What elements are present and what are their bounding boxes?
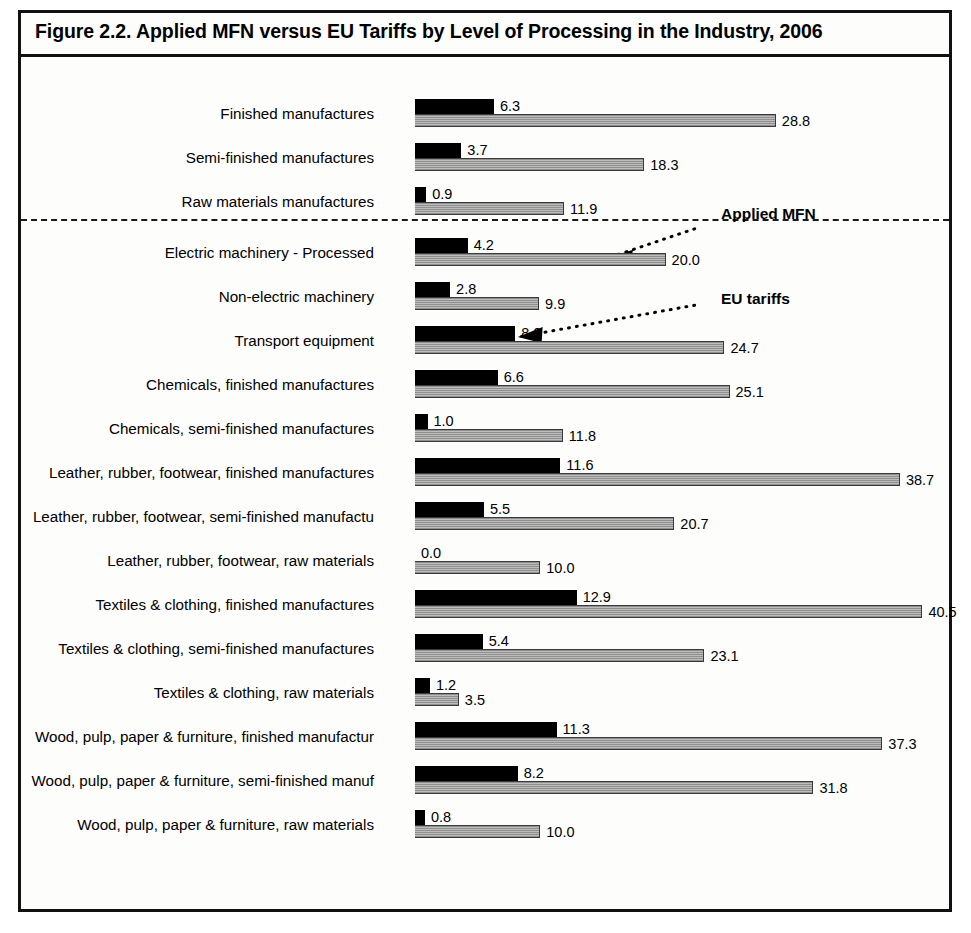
chart-row: Electric machinery - Processed4.220.0 — [21, 236, 949, 280]
category-label: Wood, pulp, paper & furniture, raw mater… — [77, 816, 374, 834]
category-label: Wood, pulp, paper & furniture, finished … — [35, 728, 374, 746]
value-label-eu-tariff: 18.3 — [650, 158, 678, 172]
bar-eu-tariff — [415, 693, 459, 706]
bar-eu-tariff — [415, 649, 704, 662]
category-label: Raw materials manufactures — [182, 193, 374, 211]
category-label: Chemicals, finished manufactures — [146, 376, 374, 394]
bar-eu-tariff — [415, 825, 540, 838]
value-label-eu-tariff: 11.9 — [570, 202, 597, 216]
bar-eu-tariff — [415, 737, 882, 750]
bar-applied-mfn — [415, 722, 557, 737]
chart-row: Transport equipment8.024.7 — [21, 324, 949, 368]
chart-row: Chemicals, finished manufactures6.625.1 — [21, 368, 949, 412]
bar-group: 11.337.3 — [415, 722, 882, 750]
category-label: Non-electric machinery — [219, 288, 374, 306]
bar-group: 0.010.0 — [415, 546, 540, 574]
bar-group: 5.520.7 — [415, 502, 674, 530]
page-title: Figure 2.2. Applied MFN versus EU Tariff… — [35, 20, 823, 43]
figure-frame: Figure 2.2. Applied MFN versus EU Tariff… — [18, 10, 952, 912]
category-label: Chemicals, semi-finished manufactures — [109, 420, 374, 438]
value-label-eu-tariff: 10.0 — [546, 561, 574, 575]
bar-eu-tariff — [415, 781, 813, 794]
bar-applied-mfn — [415, 414, 428, 429]
bar-group: 12.940.5 — [415, 590, 922, 618]
chart-row: Wood, pulp, paper & furniture, finished … — [21, 720, 949, 764]
chart-row: Leather, rubber, footwear, raw materials… — [21, 544, 949, 588]
value-label-applied-mfn: 1.2 — [436, 678, 456, 692]
chart-row: Finished manufactures6.328.8 — [21, 97, 949, 141]
bar-applied-mfn — [415, 502, 484, 517]
bar-eu-tariff — [415, 561, 540, 574]
bar-applied-mfn — [415, 766, 518, 781]
value-label-applied-mfn: 0.9 — [432, 187, 452, 201]
value-label-eu-tariff: 3.5 — [465, 693, 485, 707]
chart-row: Wood, pulp, paper & furniture, raw mater… — [21, 808, 949, 852]
category-label: Wood, pulp, paper & furniture, semi-fini… — [32, 772, 374, 790]
bar-applied-mfn — [415, 187, 426, 202]
bar-group: 8.231.8 — [415, 766, 813, 794]
category-label: Textiles & clothing, raw materials — [154, 684, 374, 702]
bar-applied-mfn — [415, 370, 498, 385]
value-label-eu-tariff: 37.3 — [888, 737, 916, 751]
value-label-applied-mfn: 4.2 — [474, 238, 494, 252]
value-label-eu-tariff: 20.0 — [672, 253, 700, 267]
value-label-eu-tariff: 10.0 — [546, 825, 574, 839]
bar-eu-tariff — [415, 605, 922, 618]
chart-row: Leather, rubber, footwear, finished manu… — [21, 456, 949, 500]
category-label: Leather, rubber, footwear, raw materials — [107, 552, 374, 570]
chart-row: Textiles & clothing, semi-finished manuf… — [21, 632, 949, 676]
chart-row: Wood, pulp, paper & furniture, semi-fini… — [21, 764, 949, 808]
chart-row: Chemicals, semi-finished manufactures1.0… — [21, 412, 949, 456]
bar-group: 1.011.8 — [415, 414, 563, 442]
value-label-applied-mfn: 8.2 — [524, 766, 544, 780]
bar-applied-mfn — [415, 282, 450, 297]
chart-row: Non-electric machinery2.89.9 — [21, 280, 949, 324]
value-label-applied-mfn: 5.5 — [490, 502, 510, 516]
bar-applied-mfn — [415, 99, 494, 114]
value-label-applied-mfn: 0.8 — [431, 810, 451, 824]
value-label-applied-mfn: 6.3 — [500, 99, 520, 113]
chart-row: Leather, rubber, footwear, semi-finished… — [21, 500, 949, 544]
bar-group: 5.423.1 — [415, 634, 704, 662]
bar-eu-tariff — [415, 341, 724, 354]
bar-eu-tariff — [415, 158, 644, 171]
value-label-eu-tariff: 23.1 — [710, 649, 738, 663]
value-label-applied-mfn: 5.4 — [489, 634, 509, 648]
value-label-eu-tariff: 28.8 — [782, 114, 810, 128]
bar-eu-tariff — [415, 114, 776, 127]
bar-eu-tariff — [415, 385, 730, 398]
category-label: Textiles & clothing, finished manufactur… — [95, 596, 374, 614]
bar-group: 0.810.0 — [415, 810, 540, 838]
bar-applied-mfn — [415, 590, 577, 605]
bar-applied-mfn — [415, 143, 461, 158]
chart-plot-area: Applied MFN EU tariffs Finished manufact… — [21, 57, 949, 909]
value-label-eu-tariff: 38.7 — [906, 473, 934, 487]
chart-row: Raw materials manufactures0.911.9 — [21, 185, 949, 229]
value-label-eu-tariff: 25.1 — [736, 385, 764, 399]
value-label-eu-tariff: 40.5 — [928, 605, 956, 619]
value-label-eu-tariff: 9.9 — [545, 297, 565, 311]
value-label-applied-mfn: 8.0 — [521, 326, 541, 340]
bar-eu-tariff — [415, 253, 666, 266]
value-label-eu-tariff: 20.7 — [680, 517, 708, 531]
category-label: Electric machinery - Processed — [165, 244, 374, 262]
value-label-applied-mfn: 11.3 — [563, 722, 590, 736]
category-label: Transport equipment — [234, 332, 374, 350]
bar-applied-mfn — [415, 326, 515, 341]
bar-applied-mfn — [415, 678, 430, 693]
bar-eu-tariff — [415, 517, 674, 530]
bar-eu-tariff — [415, 297, 539, 310]
chart-row: Textiles & clothing, raw materials1.23.5 — [21, 676, 949, 720]
category-label: Semi-finished manufactures — [186, 149, 374, 167]
bar-group: 0.911.9 — [415, 187, 564, 215]
bar-group: 1.23.5 — [415, 678, 459, 706]
bar-group: 3.718.3 — [415, 143, 644, 171]
category-label: Leather, rubber, footwear, finished manu… — [49, 464, 374, 482]
value-label-applied-mfn: 11.6 — [566, 458, 593, 472]
bar-group: 6.328.8 — [415, 99, 776, 127]
category-label: Textiles & clothing, semi-finished manuf… — [58, 640, 374, 658]
bar-applied-mfn — [415, 238, 468, 253]
bar-eu-tariff — [415, 429, 563, 442]
bar-eu-tariff — [415, 202, 564, 215]
value-label-applied-mfn: 12.9 — [583, 590, 611, 604]
